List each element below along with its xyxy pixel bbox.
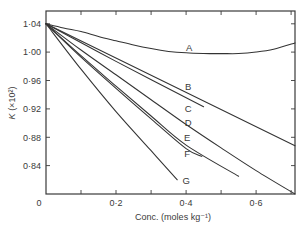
curve-label-c: C xyxy=(185,103,192,114)
curves xyxy=(46,24,295,194)
curve-label-b: B xyxy=(185,81,191,92)
curve-a xyxy=(46,24,295,54)
y-tick-label: 0·92 xyxy=(23,104,41,114)
x-tick-label: 0·6 xyxy=(250,198,263,208)
x-axis-title: Conc. (moles kg⁻¹) xyxy=(135,212,211,222)
y-axis-title: K (×10²) xyxy=(7,87,17,120)
y-tick-label: 0·96 xyxy=(23,76,41,86)
curve-d xyxy=(46,24,295,194)
curve-b xyxy=(46,24,295,146)
y-tick-label: 0·84 xyxy=(23,161,41,171)
y-tick-label: 1·00 xyxy=(23,47,41,57)
curve-g xyxy=(46,24,177,180)
x-tick-label: 0·4 xyxy=(180,198,193,208)
curve-label-d: D xyxy=(185,117,192,128)
y-axis-unit: (×10²) xyxy=(7,87,17,114)
x-tick-label: 0 xyxy=(36,198,41,208)
curve-label-e: E xyxy=(184,132,190,143)
curve-label-g: G xyxy=(182,175,189,186)
y-tick-label: 1·04 xyxy=(23,19,41,29)
chart: 00·20·40·60·840·880·920·961·001·04 ABCDE… xyxy=(0,0,304,229)
curve-label-a: A xyxy=(186,42,193,53)
y-tick-label: 0·88 xyxy=(23,133,41,143)
curve-label-f: F xyxy=(184,148,190,159)
curve-f xyxy=(46,24,202,157)
curve-labels: ABCDEFG xyxy=(182,42,193,186)
plot-frame xyxy=(46,11,295,194)
plot-area-border xyxy=(46,11,295,194)
axis-ticks xyxy=(46,11,295,194)
x-tick-label: 0·2 xyxy=(109,198,122,208)
